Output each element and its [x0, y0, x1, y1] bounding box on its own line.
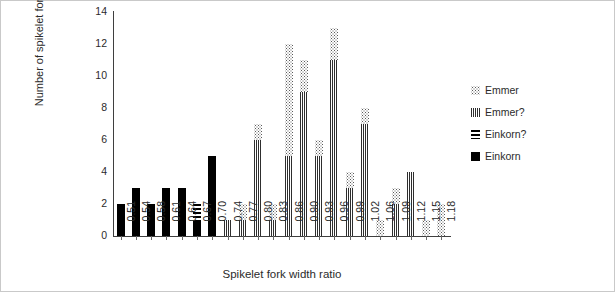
- x-axis-tick-label: 0.86: [293, 201, 305, 241]
- legend-label: Emmer?: [485, 106, 525, 118]
- x-axis-tick-label: 0.99: [354, 201, 366, 241]
- x-axis-tick-label: 0.77: [247, 201, 259, 241]
- legend-item: Emmer: [471, 79, 591, 101]
- legend-swatch-vertical-lines-icon: [471, 108, 480, 117]
- y-axis-tick-label: 6: [85, 133, 107, 145]
- legend-item: Einkorn?: [471, 123, 591, 145]
- x-axis-tick-label: 1.06: [384, 201, 396, 241]
- x-axis-tick-label: 0.70: [216, 201, 228, 241]
- x-axis-tick-mark: [121, 236, 122, 240]
- x-axis-tick-label: 0.54: [140, 201, 152, 241]
- x-axis-tick-label: 1.15: [430, 201, 442, 241]
- y-axis-tick-label: 8: [85, 101, 107, 113]
- x-axis-tick-label: 1.09: [400, 201, 412, 241]
- bar-segment-emmer: [315, 140, 323, 156]
- y-axis-tick-label: 12: [85, 37, 107, 49]
- x-axis-tick-label: 0.67: [201, 201, 213, 241]
- bar-stack: [117, 204, 125, 236]
- chart-legend: EmmerEmmer?Einkorn?Einkorn: [471, 79, 591, 167]
- y-axis-tick-label: 2: [85, 197, 107, 209]
- bar-segment-emmer: [285, 44, 293, 156]
- y-axis-tick-labels: 02468101214: [85, 1, 107, 292]
- x-axis-tick-label: 0.58: [155, 201, 167, 241]
- bar-segment-emmer: [254, 124, 262, 140]
- chart-frame: 02468101214 Number of spikelet forks Spi…: [0, 0, 615, 292]
- x-axis-tick-label: 0.90: [308, 201, 320, 241]
- x-axis-tick-label: 0.96: [338, 201, 350, 241]
- legend-swatch-solid-black-icon: [471, 152, 480, 161]
- legend-label: Einkorn: [485, 150, 521, 162]
- x-axis-tick-label: 0.93: [323, 201, 335, 241]
- bar-segment-emmer: [346, 172, 354, 188]
- x-axis-tick-label: 0.80: [262, 201, 274, 241]
- legend-swatch-horizontal-lines-icon: [471, 130, 480, 139]
- x-axis-tick-label: 1.02: [369, 201, 381, 241]
- y-axis-tick-label: 10: [85, 69, 107, 81]
- x-axis-tick-label: 0.51: [125, 201, 137, 241]
- y-axis-tick-label: 0: [85, 229, 107, 241]
- legend-label: Einkorn?: [485, 128, 526, 140]
- legend-item: Einkorn: [471, 145, 591, 167]
- y-axis-title: Number of spikelet forks: [33, 0, 45, 132]
- legend-swatch-dotted-icon: [471, 86, 480, 95]
- x-axis-tick-label: 1.12: [415, 201, 427, 241]
- bar-segment-einkorn: [117, 204, 125, 236]
- y-axis-tick-label: 4: [85, 165, 107, 177]
- x-axis-tick-label: 0.74: [232, 201, 244, 241]
- legend-label: Emmer: [485, 84, 519, 96]
- x-axis-title: Spikelet fork width ratio: [113, 268, 451, 280]
- y-axis-tick-label: 14: [85, 5, 107, 17]
- x-axis-tick-label: 0.61: [170, 201, 182, 241]
- x-axis-tick-label: 1.18: [445, 201, 457, 241]
- x-axis-tick-label: 0.83: [277, 201, 289, 241]
- x-axis-tick-label: 0.64: [186, 201, 198, 241]
- bar-segment-emmer: [300, 60, 308, 92]
- legend-item: Emmer?: [471, 101, 591, 123]
- bar-segment-emmer: [361, 108, 369, 124]
- bar-segment-emmer: [330, 28, 338, 60]
